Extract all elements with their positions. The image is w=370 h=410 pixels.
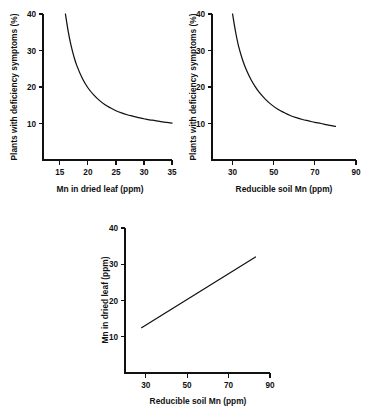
- panel-a-xticklabel-25: 25: [111, 168, 121, 177]
- chart-panel-leaf-mn-vs-deficiency: 10 20 30 40 15 20 25 30 35 Mn in dried l…: [0, 0, 186, 200]
- panel-b-y-ticks: [208, 14, 212, 124]
- panel-c-xticklabel-70: 70: [224, 381, 234, 390]
- chart-panel-soil-mn-vs-deficiency: 10 20 30 40 30 50 70 90 Reducible soil M…: [186, 0, 370, 200]
- panel-c-xticklabel-30: 30: [141, 381, 151, 390]
- panel-c-axes: [125, 228, 270, 373]
- three-panel-scatter-figure: 10 20 30 40 15 20 25 30 35 Mn in dried l…: [0, 0, 370, 410]
- panel-c-yticklabel-20: 20: [109, 297, 119, 306]
- panel-b-x-ticks: [233, 160, 356, 165]
- panel-a-yticklabel-10: 10: [27, 120, 37, 129]
- panel-c-xticklabel-50: 50: [183, 381, 193, 390]
- panel-c-yticklabel-40: 40: [109, 224, 119, 233]
- panel-b-xticklabel-90: 90: [351, 168, 361, 177]
- panel-a-axes: [43, 14, 172, 160]
- panel-a-xticklabel-30: 30: [139, 168, 149, 177]
- panel-c-data-curve: [142, 257, 256, 328]
- panel-b-yaxis-title: Plants with deficiency symptoms (%): [188, 13, 198, 160]
- chart-panel-soil-mn-vs-leaf-mn: 10 20 30 40 30 50 70 90 Reducible soil M…: [95, 198, 370, 410]
- panel-a-xticklabel-15: 15: [55, 168, 65, 177]
- panel-b-axes: [212, 14, 356, 160]
- panel-b-xaxis-title: Reducible soil Mn (ppm): [236, 184, 333, 194]
- panel-c-yticklabel-10: 10: [109, 333, 119, 342]
- panel-c-yticklabel-30: 30: [109, 260, 119, 269]
- panel-a-svg: 10 20 30 40 15 20 25 30 35 Mn in dried l…: [0, 0, 186, 200]
- panel-c-xaxis-title: Reducible soil Mn (ppm): [150, 396, 247, 406]
- panel-c-yaxis-title: Mn in dried leaf (ppm): [100, 256, 110, 343]
- panel-a-yticklabel-40: 40: [27, 10, 37, 19]
- panel-c-xticklabel-90: 90: [265, 381, 275, 390]
- panel-b-svg: 10 20 30 40 30 50 70 90 Reducible soil M…: [186, 0, 370, 200]
- panel-c-x-ticks: [146, 373, 270, 378]
- panel-a-xaxis-title: Mn in dried leaf (ppm): [56, 184, 143, 194]
- panel-b-xticklabel-50: 50: [269, 168, 279, 177]
- panel-b-xticklabel-30: 30: [228, 168, 238, 177]
- panel-c-y-ticks: [121, 228, 125, 337]
- panel-a-yticklabel-30: 30: [27, 47, 37, 56]
- panel-a-y-ticks: [39, 14, 43, 124]
- panel-a-data-curve: [65, 14, 172, 123]
- panel-c-svg: 10 20 30 40 30 50 70 90 Reducible soil M…: [95, 198, 370, 410]
- panel-b-data-curve: [233, 14, 336, 126]
- panel-a-yticklabel-20: 20: [27, 83, 37, 92]
- panel-a-xticklabel-35: 35: [167, 168, 177, 177]
- panel-b-xticklabel-70: 70: [310, 168, 320, 177]
- panel-a-yaxis-title: Plants with deficiency symptoms (%): [9, 13, 19, 160]
- panel-a-x-ticks: [60, 160, 172, 165]
- panel-a-xticklabel-20: 20: [83, 168, 93, 177]
